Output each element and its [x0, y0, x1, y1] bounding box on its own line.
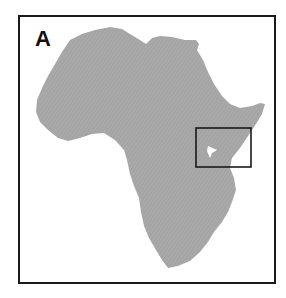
- africa-continent: [36, 27, 265, 268]
- africa-map: [0, 0, 286, 298]
